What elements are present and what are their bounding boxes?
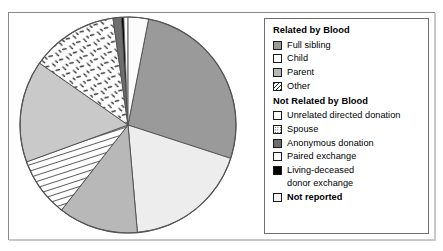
legend-label-child: Child <box>287 52 308 65</box>
legend-item-not-reported: Not reported <box>271 191 422 204</box>
swatch-other-hatch-icon <box>273 82 282 91</box>
legend-label-living-deceased-line2: donor exchange <box>287 177 354 190</box>
legend-heading-not-related: Not Related by Blood <box>273 95 422 109</box>
legend-label-spouse: Spouse <box>287 123 318 136</box>
legend-item-paired-exchange: Paired exchange <box>271 150 422 163</box>
legend-item-other: Other <box>271 80 422 93</box>
legend-label-full-sibling: Full sibling <box>287 39 331 52</box>
legend-label-living-deceased-donor-exchange: Living-deceased donor exchange <box>287 164 354 190</box>
legend-item-parent: Parent <box>271 66 422 79</box>
swatch-child-icon <box>273 54 282 63</box>
swatch-parent-icon <box>273 68 282 77</box>
pie-chart-svg <box>10 13 255 239</box>
swatch-paired-exchange-icon <box>273 152 282 161</box>
swatch-full-sibling-icon <box>273 41 282 50</box>
pie-slices <box>20 17 236 233</box>
swatch-anonymous-donation-icon <box>273 139 282 148</box>
swatch-living-deceased-donor-exchange-icon <box>273 166 282 175</box>
legend-label-paired-exchange: Paired exchange <box>287 150 356 163</box>
legend-label-anonymous-donation: Anonymous donation <box>287 137 374 150</box>
pie-chart-area <box>10 13 255 239</box>
legend-item-living-deceased-donor-exchange: Living-deceased donor exchange <box>271 164 422 190</box>
legend-label-living-deceased-line1: Living-deceased <box>287 165 354 175</box>
legend-item-full-sibling: Full sibling <box>271 39 422 52</box>
legend-item-child: Child <box>271 52 422 65</box>
legend-item-spouse: Spouse <box>271 123 422 136</box>
chart-legend: Related by Blood Full sibling Child Pare… <box>264 18 429 234</box>
legend-label-other: Other <box>287 80 310 93</box>
legend-label-unrelated-directed-donation: Unrelated directed donation <box>287 109 400 122</box>
legend-item-unrelated-directed-donation: Unrelated directed donation <box>271 109 422 122</box>
legend-heading-related: Related by Blood <box>273 24 422 38</box>
legend-item-anonymous-donation: Anonymous donation <box>271 137 422 150</box>
swatch-unrelated-directed-donation-icon <box>273 111 282 120</box>
swatch-not-reported-icon <box>273 193 282 202</box>
legend-label-parent: Parent <box>287 66 314 79</box>
legend-label-not-reported: Not reported <box>287 191 342 204</box>
swatch-spouse-stipple-icon <box>273 125 282 134</box>
pie-chart-figure: Related by Blood Full sibling Child Pare… <box>0 0 443 251</box>
